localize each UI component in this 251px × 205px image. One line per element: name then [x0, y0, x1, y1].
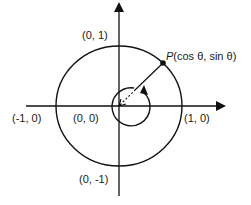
y-axis-arrow-icon	[114, 2, 124, 12]
label-left: (-1, 0)	[12, 112, 41, 124]
x-axis-arrow-icon	[216, 101, 226, 111]
angle-arc-arrow-icon	[140, 85, 148, 95]
radius-line	[135, 63, 163, 90]
radius-dashed	[120, 90, 135, 105]
point-p	[160, 60, 166, 66]
label-origin: (0, 0)	[73, 112, 99, 124]
unit-circle-diagram	[0, 0, 251, 205]
label-right: (1, 0)	[184, 112, 210, 124]
label-top: (0, 1)	[82, 29, 108, 41]
point-p-coords: (cos θ, sin θ)	[173, 50, 236, 62]
label-bottom: (0, -1)	[79, 173, 108, 185]
label-point-p: P(cos θ, sin θ)	[166, 50, 236, 62]
